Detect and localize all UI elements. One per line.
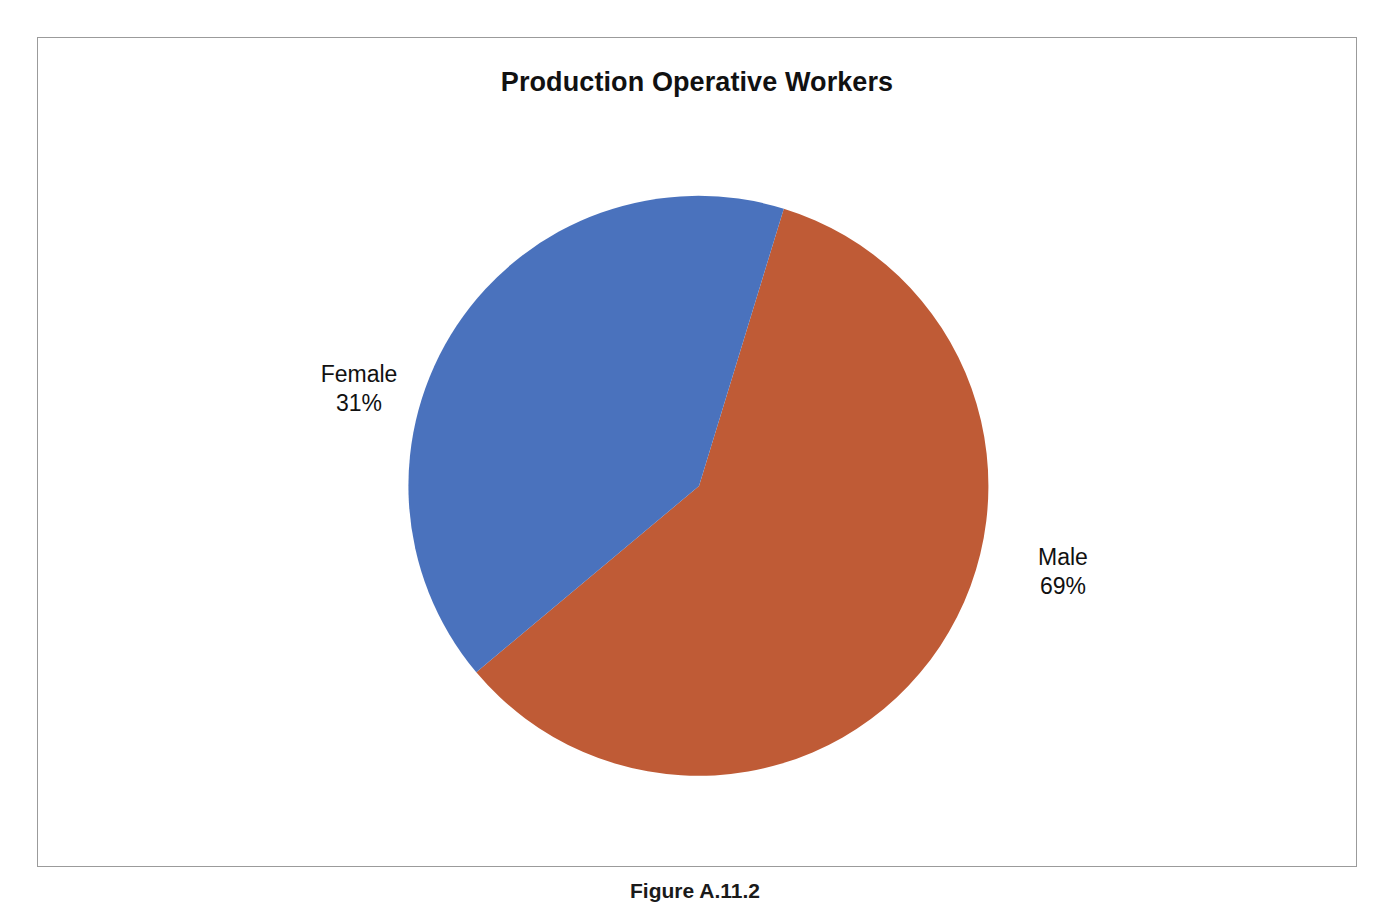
pie-label-male-value: 69% (993, 572, 1133, 601)
figure-caption: Figure A.11.2 (0, 879, 1390, 903)
pie-label-female: Female 31% (278, 360, 440, 418)
figure-frame: Production Operative Workers Female 31% … (37, 37, 1357, 867)
pie-label-female-value: 31% (278, 389, 440, 418)
pie-chart-plot: Female 31% Male 69% (38, 38, 1358, 868)
pie-label-female-name: Female (278, 360, 440, 389)
pie-label-male: Male 69% (993, 543, 1133, 601)
pie-label-male-name: Male (993, 543, 1133, 572)
pie-chart-svg (38, 38, 1358, 868)
